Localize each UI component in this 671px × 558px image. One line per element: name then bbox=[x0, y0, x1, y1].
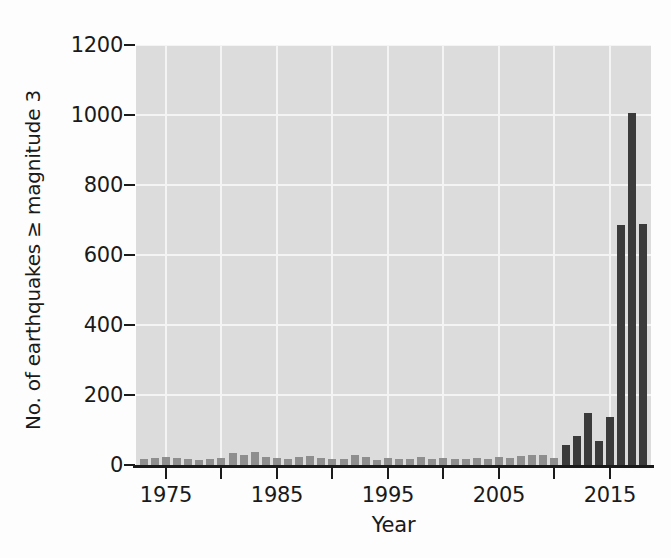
x-axis-line bbox=[133, 465, 654, 468]
bar bbox=[229, 453, 237, 465]
bar bbox=[240, 455, 248, 466]
bar bbox=[384, 458, 392, 465]
x-axis-tick bbox=[498, 468, 500, 479]
x-axis-label: Year bbox=[136, 513, 651, 537]
bar bbox=[595, 441, 603, 465]
x-axis-tick bbox=[331, 468, 333, 479]
y-axis-tick bbox=[124, 324, 135, 326]
bar bbox=[639, 224, 647, 466]
plot-area bbox=[136, 45, 651, 465]
x-axis-tick bbox=[220, 468, 222, 479]
bar bbox=[495, 457, 503, 465]
y-axis-tick bbox=[124, 464, 135, 466]
bar bbox=[628, 113, 636, 465]
bar bbox=[584, 413, 592, 466]
bar bbox=[473, 458, 481, 465]
bar-series bbox=[136, 45, 651, 465]
y-axis-tick-label: 200 bbox=[84, 383, 123, 407]
y-axis-tick-label: 0 bbox=[110, 453, 123, 477]
bar bbox=[617, 225, 625, 465]
bar bbox=[517, 456, 525, 465]
x-axis-tick-label: 1975 bbox=[140, 483, 192, 507]
y-axis-tick-label: 1000 bbox=[71, 103, 123, 127]
bar bbox=[506, 458, 514, 465]
x-axis-tick bbox=[387, 468, 389, 479]
bar bbox=[539, 455, 547, 465]
bar bbox=[606, 417, 614, 465]
bar bbox=[562, 445, 570, 465]
bar bbox=[262, 457, 270, 465]
x-axis-tick-label: 2005 bbox=[473, 483, 525, 507]
bar bbox=[273, 458, 281, 465]
bar bbox=[573, 436, 581, 465]
y-axis-tick bbox=[124, 184, 135, 186]
y-axis-tick bbox=[124, 114, 135, 116]
bar bbox=[362, 457, 370, 465]
x-axis-tick-label: 2015 bbox=[584, 483, 636, 507]
y-axis-tick bbox=[124, 394, 135, 396]
bar bbox=[306, 456, 314, 465]
bar bbox=[173, 458, 181, 465]
x-axis-tick bbox=[553, 468, 555, 479]
bar bbox=[550, 458, 558, 465]
y-axis-tick bbox=[124, 254, 135, 256]
bar bbox=[162, 457, 170, 465]
y-axis-tick bbox=[124, 44, 135, 46]
earthquake-bar-chart: 1200100080060040020001975198519952005201… bbox=[0, 0, 671, 558]
y-axis-tick-label: 400 bbox=[84, 313, 123, 337]
bar bbox=[217, 458, 225, 465]
x-axis-tick bbox=[609, 468, 611, 479]
bar bbox=[417, 457, 425, 465]
bar bbox=[351, 455, 359, 466]
bar bbox=[251, 452, 259, 465]
x-axis-tick bbox=[442, 468, 444, 479]
y-axis-tick-label: 600 bbox=[84, 243, 123, 267]
x-axis-tick bbox=[276, 468, 278, 479]
x-axis-tick-label: 1985 bbox=[251, 483, 303, 507]
bar bbox=[439, 458, 447, 465]
bar bbox=[528, 455, 536, 466]
x-axis-tick-label: 1995 bbox=[362, 483, 414, 507]
bar bbox=[317, 458, 325, 465]
y-axis-label: No. of earthquakes ≥ magnitude 3 bbox=[21, 50, 45, 470]
bar bbox=[295, 457, 303, 465]
x-axis-tick bbox=[165, 468, 167, 479]
y-axis-tick-label: 800 bbox=[84, 173, 123, 197]
y-axis-tick-label: 1200 bbox=[71, 33, 123, 57]
bar bbox=[151, 458, 159, 465]
